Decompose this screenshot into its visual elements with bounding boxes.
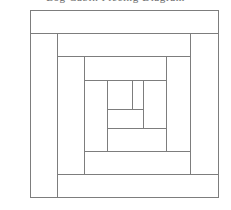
ring-2-right-log	[167, 57, 191, 152]
ring-3-top-log	[85, 57, 167, 81]
center-center-bottom-log	[108, 110, 144, 129]
center-center-square-left	[108, 81, 133, 110]
log-cabin-block-diagram	[0, 0, 231, 210]
ring-3-bottom-log	[108, 129, 167, 152]
ring-2-bottom-log	[85, 152, 191, 175]
ring-2-left-log	[58, 57, 85, 175]
block-pieces-group	[31, 11, 219, 198]
ring-2-top-log	[58, 34, 191, 57]
ring-1-left-log	[31, 34, 58, 198]
ring-3-right-log	[144, 81, 167, 129]
diagram-canvas: Log Cabin Piecing Diagram	[0, 0, 231, 210]
center-center-square-right	[133, 81, 144, 110]
ring-1-bottom-log	[58, 175, 219, 198]
ring-1-right-log	[191, 34, 219, 175]
ring-3-left-log	[85, 81, 108, 152]
ring-1-top-log	[31, 11, 219, 34]
